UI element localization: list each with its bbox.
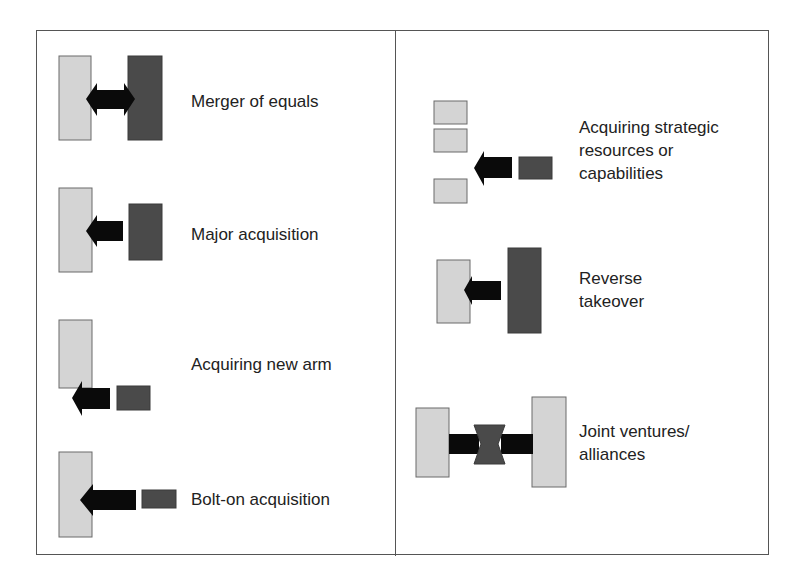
label-strategic-resources: Acquiring strategic resources or capabil… — [579, 116, 719, 185]
label-line: Joint ventures/ — [579, 420, 690, 443]
label-joint-ventures: Joint ventures/ alliances — [579, 420, 690, 466]
label-line: Reverse — [579, 267, 644, 290]
joint-ventures-icon — [416, 397, 566, 487]
diagram-canvas — [0, 0, 810, 585]
label-line: takeover — [579, 290, 644, 313]
strategic-resources-icon — [434, 101, 552, 203]
reverse-takeover-icon — [437, 248, 541, 333]
label-reverse-takeover: Reverse takeover — [579, 267, 644, 313]
acquiring-new-arm-icon — [59, 320, 150, 416]
major-acquisition-icon — [59, 188, 162, 272]
label-line: capabilities — [579, 162, 719, 185]
label-major-acquisition: Major acquisition — [191, 223, 319, 246]
label-line: Acquiring strategic — [579, 116, 719, 139]
label-acquiring-new-arm: Acquiring new arm — [191, 353, 332, 376]
label-bolt-on-acquisition: Bolt-on acquisition — [191, 488, 330, 511]
merger-of-equals-icon — [59, 56, 162, 140]
bolt-on-acquisition-icon — [59, 452, 176, 537]
label-line: alliances — [579, 443, 690, 466]
label-line: resources or — [579, 139, 719, 162]
label-merger-of-equals: Merger of equals — [191, 90, 319, 113]
